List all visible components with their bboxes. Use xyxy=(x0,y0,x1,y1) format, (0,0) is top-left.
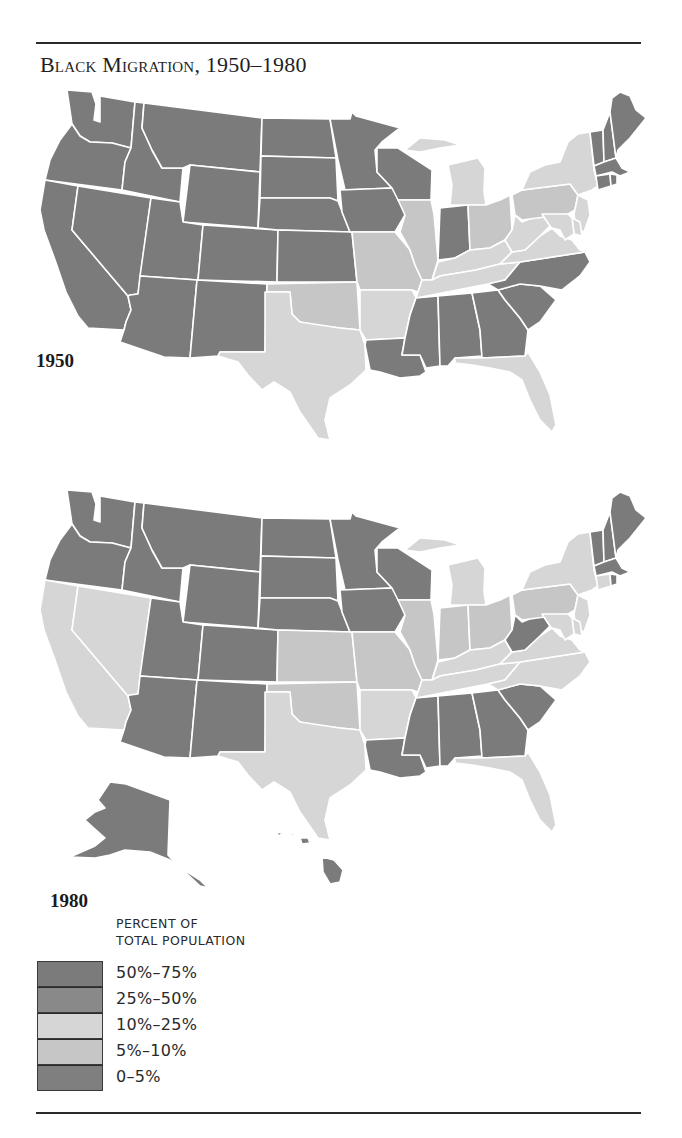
state-ks xyxy=(277,230,357,282)
legend-label: 5%–10% xyxy=(116,1041,187,1060)
state-co xyxy=(198,625,278,682)
legend-label: 50%–75% xyxy=(116,963,197,982)
state-ne xyxy=(258,598,350,632)
state-ak xyxy=(70,782,208,888)
state-ct xyxy=(596,174,611,190)
state-ri xyxy=(610,174,617,186)
legend-swatch xyxy=(37,961,103,987)
state-hi xyxy=(275,832,343,884)
legend-swatch xyxy=(37,987,103,1013)
legend-label: 10%–25% xyxy=(116,1015,197,1034)
legend-swatch xyxy=(37,1039,103,1065)
state-ny xyxy=(522,132,598,195)
state-fl xyxy=(455,352,556,432)
state-nm xyxy=(190,280,267,358)
state-ri xyxy=(610,574,617,586)
legend-title-line2: TOTAL POPULATION xyxy=(116,932,245,949)
state-me xyxy=(610,492,646,558)
legend-title-line1: PERCENT OF xyxy=(116,915,245,932)
state-wy xyxy=(183,165,260,228)
state-ct xyxy=(596,574,611,590)
year-label-1950: 1950 xyxy=(36,350,74,372)
legend-label: 0–5% xyxy=(116,1067,161,1086)
state-fl xyxy=(455,752,556,832)
legend-title: PERCENT OF TOTAL POPULATION xyxy=(116,915,245,949)
state-sd xyxy=(260,556,338,601)
bottom-rule xyxy=(36,1112,641,1114)
state-ny xyxy=(522,532,598,595)
state-mt xyxy=(142,503,262,572)
legend-label: 25%–50% xyxy=(116,989,197,1008)
state-mt xyxy=(142,103,262,172)
map-1950 xyxy=(40,90,646,440)
state-nd xyxy=(261,518,336,558)
state-wy xyxy=(183,565,260,628)
state-co xyxy=(198,225,278,282)
year-label-1980: 1980 xyxy=(50,890,88,912)
state-ks xyxy=(277,630,357,682)
state-ne xyxy=(258,198,350,232)
legend-swatch xyxy=(37,1065,103,1091)
state-sd xyxy=(260,156,338,201)
legend-swatch xyxy=(37,1013,103,1039)
state-nm xyxy=(190,680,267,758)
state-me xyxy=(610,92,646,158)
state-nd xyxy=(261,118,336,158)
